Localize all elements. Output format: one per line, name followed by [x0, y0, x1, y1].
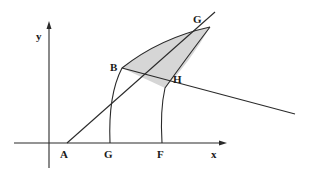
geometry-diagram: y x A G F B H G — [0, 0, 315, 177]
point-label-f: F — [157, 148, 164, 160]
point-label-h: H — [173, 73, 182, 85]
point-label-b: B — [110, 61, 118, 73]
shaded-region-bgh — [122, 27, 210, 88]
y-axis-arrow-icon — [47, 21, 52, 29]
x-axis-label: x — [211, 148, 217, 160]
x-axis-arrow-icon — [219, 141, 227, 146]
point-label-g-top: G — [193, 13, 202, 25]
y-axis-label: y — [36, 30, 42, 42]
point-label-a: A — [60, 148, 68, 160]
point-label-g-base: G — [104, 148, 113, 160]
line-b-h — [122, 68, 295, 114]
